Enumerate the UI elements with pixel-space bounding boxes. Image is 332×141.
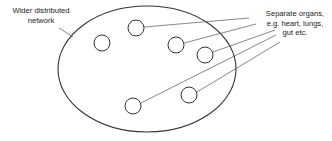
organ-circle-1 xyxy=(94,35,110,51)
organ-leader-line-2 xyxy=(144,18,249,27)
network-leader-line xyxy=(59,28,73,37)
organ-leader-line-5 xyxy=(141,35,276,103)
organs-label-line3: gut etc. xyxy=(258,28,332,38)
organ-circle-2 xyxy=(128,20,144,36)
organs-label: Separate organs, e.g. heart, lungs, gut … xyxy=(258,9,332,38)
organs-label-line1: Separate organs, xyxy=(258,9,332,19)
network-ellipse xyxy=(58,6,236,132)
network-label-line2: network xyxy=(10,16,72,26)
organs-label-line2: e.g. heart, lungs, xyxy=(258,19,332,29)
organ-circle-5 xyxy=(125,98,141,114)
organ-leader-line-3 xyxy=(184,24,256,43)
organ-circle-6 xyxy=(181,87,197,103)
organ-circle-3 xyxy=(168,37,184,53)
network-label: Wider distributed network xyxy=(10,6,72,25)
organ-leader-line-6 xyxy=(197,42,280,92)
network-label-line1: Wider distributed xyxy=(10,6,72,16)
organ-circle-4 xyxy=(197,47,213,63)
